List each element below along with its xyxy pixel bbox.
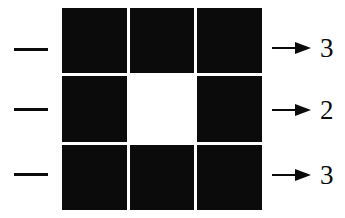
row-dash-1 (14, 108, 48, 111)
grid-cell-r2c1 (130, 145, 195, 210)
row-dash-0 (14, 48, 48, 51)
grid-cell-r2c0 (62, 145, 127, 210)
grid-cell-r2c2 (197, 145, 262, 210)
arrow-right-icon (272, 42, 312, 54)
row-count-0: 3 (320, 35, 334, 62)
row-readout-2: 3 (272, 158, 334, 192)
grid-cell-r1c1 (130, 76, 195, 141)
grid-cell-r0c1 (130, 8, 195, 73)
arrow-head (295, 104, 311, 116)
grid-cell-r1c2 (197, 76, 262, 141)
row-readout-1: 2 (272, 93, 334, 127)
arrow-head (295, 169, 311, 181)
cell-grid (62, 8, 262, 210)
arrow-right-icon (272, 104, 312, 116)
grid-cell-r1c0 (62, 76, 127, 141)
grid-cell-r0c0 (62, 8, 127, 73)
row-readout-0: 3 (272, 31, 334, 65)
row-count-1: 2 (320, 97, 334, 124)
grid-row-count-figure: 3 2 3 (0, 0, 345, 218)
row-count-2: 3 (320, 162, 334, 189)
arrow-head (295, 42, 311, 54)
row-dash-2 (14, 173, 48, 176)
grid-cell-r0c2 (197, 8, 262, 73)
arrow-right-icon (272, 169, 312, 181)
